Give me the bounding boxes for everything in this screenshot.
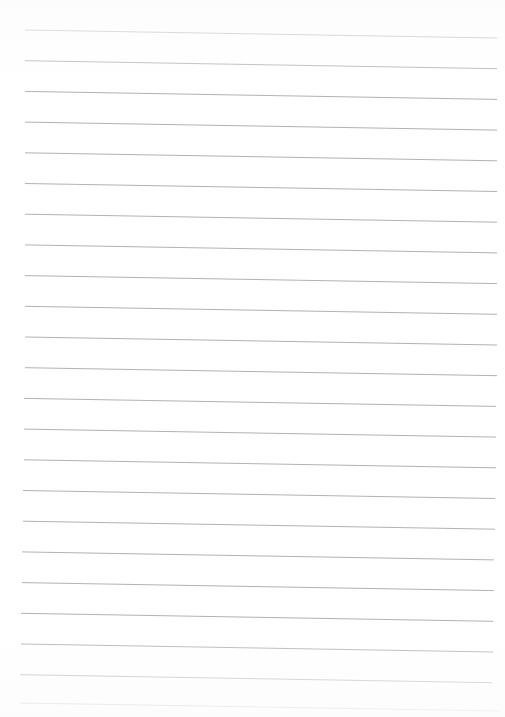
ruled-line: [25, 214, 497, 222]
ruled-line: [25, 153, 497, 161]
ruled-line-group: [20, 30, 500, 711]
ruled-line: [25, 61, 497, 69]
ruled-line: [25, 276, 497, 284]
ruled-line: [21, 644, 493, 652]
page-description: Blank lined paper scan with no written c…: [0, 0, 1, 1]
ruled-lines-svg: [0, 0, 505, 717]
ruled-line: [24, 460, 496, 468]
ruled-line: [25, 122, 497, 130]
ruled-line: [25, 30, 497, 38]
ruled-line: [25, 368, 497, 376]
ruled-line: [25, 91, 497, 99]
ruled-line: [25, 245, 497, 253]
ruled-lines-layer: [0, 0, 505, 717]
ruled-line: [24, 429, 496, 437]
ruled-line: [20, 675, 492, 683]
ruled-line: [23, 521, 495, 529]
ruled-line: [23, 491, 495, 499]
ruled-line: [25, 337, 497, 345]
notebook-page: Blank lined paper scan with no written c…: [0, 0, 505, 717]
paper-tone-overlay: [0, 0, 505, 717]
ruled-line: [20, 703, 500, 711]
ruled-line: [22, 552, 494, 560]
ruled-line: [24, 398, 496, 406]
ruled-line: [21, 613, 493, 621]
ruled-line: [22, 583, 494, 591]
ruled-line: [25, 184, 497, 192]
ruled-line: [25, 306, 497, 314]
